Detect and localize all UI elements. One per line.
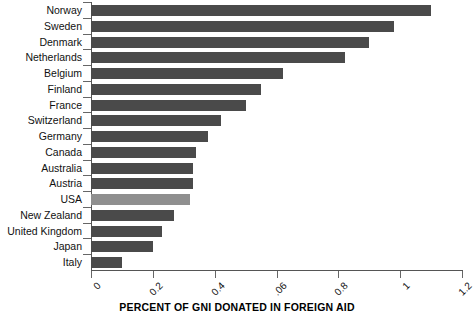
bar-japan [91, 241, 153, 252]
y-tick [83, 191, 91, 192]
bar-france [91, 100, 246, 111]
bar-netherlands [91, 52, 345, 63]
x-tick-label: 0.8 [297, 280, 350, 319]
x-tick [215, 271, 216, 278]
x-tick [277, 271, 278, 278]
y-tick [83, 81, 91, 82]
x-tick-label: 0 [50, 280, 103, 319]
category-axis-labels: NorwaySwedenDenmarkNetherlandsBelgiumFin… [0, 2, 87, 270]
bar-belgium [91, 68, 283, 79]
bar-sweden [91, 21, 394, 32]
bar-row [91, 254, 462, 272]
y-tick [83, 34, 91, 35]
x-axis-title: PERCENT OF GNI DONATED IN FOREIGN AID [0, 301, 474, 313]
bar-new-zealand [91, 210, 174, 221]
bar-switzerland [91, 115, 221, 126]
bar-italy [91, 257, 122, 268]
bar-germany [91, 131, 208, 142]
x-tick [338, 271, 339, 278]
y-tick [83, 18, 91, 19]
y-tick [83, 112, 91, 113]
bar-usa [91, 194, 190, 205]
bar-denmark [91, 37, 369, 48]
x-tick [462, 271, 463, 278]
bar-united-kingdom [91, 226, 162, 237]
bar-norway [91, 5, 431, 16]
y-tick [83, 175, 91, 176]
x-tick [153, 271, 154, 278]
bar-finland [91, 84, 261, 95]
y-tick [83, 144, 91, 145]
bar-australia [91, 163, 193, 174]
x-tick-label: 0.4 [173, 280, 226, 319]
x-tick [91, 271, 92, 278]
y-tick [83, 254, 91, 255]
y-tick [83, 223, 91, 224]
x-tick-label: 1.2 [421, 280, 474, 319]
category-label-italy: Italy [63, 254, 82, 272]
y-tick [83, 49, 91, 50]
bar-austria [91, 178, 193, 189]
bar-canada [91, 147, 196, 158]
y-tick [83, 238, 91, 239]
y-tick [83, 128, 91, 129]
y-tick [83, 160, 91, 161]
foreign-aid-bar-chart: NorwaySwedenDenmarkNetherlandsBelgiumFin… [0, 0, 474, 319]
bar-rows [91, 2, 462, 270]
x-tick-label: 1 [359, 280, 412, 319]
y-tick [83, 65, 91, 66]
y-tick [83, 97, 91, 98]
x-tick-label: .06 [235, 280, 288, 319]
y-tick [83, 2, 91, 3]
x-tick [400, 271, 401, 278]
plot-area [91, 2, 462, 270]
x-tick-label: 0.2 [112, 280, 165, 319]
y-tick [83, 207, 91, 208]
